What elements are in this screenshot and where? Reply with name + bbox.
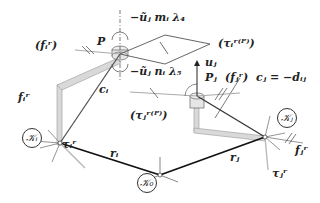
vector-ci xyxy=(60,54,120,143)
label-constraint-n: −ũⱼ nᵢ λ₅ xyxy=(130,66,181,77)
label-constraint-m: −ũⱼ mᵢ λ₄ xyxy=(130,12,185,23)
label-ri: rᵢ xyxy=(110,148,118,159)
frame-Kj-badge: 𝒦ⱼ xyxy=(277,108,297,128)
label-uj: uⱼ xyxy=(205,57,216,68)
diagram-canvas: −ũⱼ mᵢ λ₄ −ũⱼ nᵢ λ₅ (fᵢʳ) P (τᵢʳ⁽ᴾ⁾) cᵢ … xyxy=(0,0,320,203)
label-ci: cᵢ xyxy=(99,84,108,95)
link-i-horizontal xyxy=(57,58,121,90)
label-rj: rⱼ xyxy=(230,152,239,163)
label-tauj: τⱼʳ xyxy=(272,168,287,179)
label-fi-paren: (fᵢʳ) xyxy=(35,40,57,51)
label-P: P xyxy=(97,36,105,47)
label-fj-paren: (fⱼʳ) xyxy=(225,72,248,83)
label-fj: fⱼʳ xyxy=(295,145,308,156)
frame-K0-badge: 𝒦₀ xyxy=(137,173,157,193)
label-taui-P: (τᵢʳ⁽ᴾ⁾) xyxy=(218,38,255,49)
vector-rj xyxy=(160,137,265,175)
link-i-vertical xyxy=(57,85,62,145)
label-tauj-P: (τⱼʳ⁽ᴾ⁾) xyxy=(130,110,168,121)
label-Pj: Pⱼ xyxy=(205,72,217,83)
frame-Ki-badge: 𝒦ᵢ xyxy=(22,128,42,148)
label-fi: fᵢʳ xyxy=(18,92,30,103)
label-taui: τᵢʳ xyxy=(62,139,77,150)
label-cj-eq: cⱼ = −dᵢⱼ xyxy=(256,72,306,83)
